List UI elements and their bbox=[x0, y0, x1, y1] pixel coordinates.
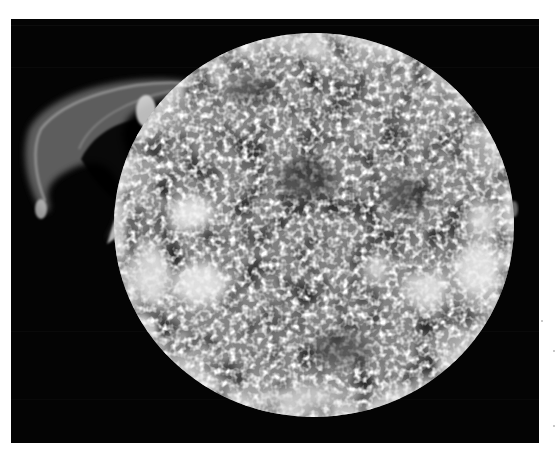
scan-artifact bbox=[553, 425, 555, 427]
page bbox=[0, 0, 557, 453]
sun-photograph bbox=[11, 19, 539, 443]
scan-artifact bbox=[553, 350, 555, 352]
scan-artifact bbox=[541, 320, 543, 322]
photo-frame bbox=[11, 19, 539, 443]
